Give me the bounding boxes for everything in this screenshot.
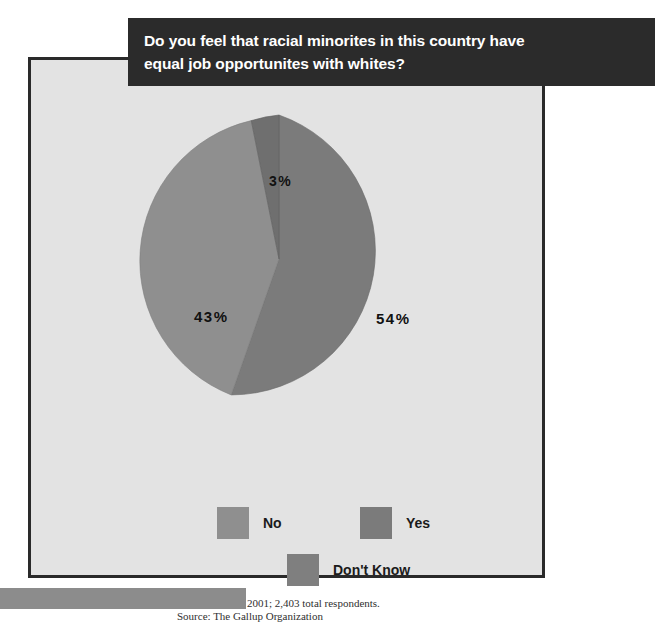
pie-label-dont-know: 3% — [269, 173, 292, 189]
legend-label-yes: Yes — [406, 515, 430, 531]
pie-label-no: 43% — [194, 308, 229, 325]
legend-swatch-no — [217, 507, 249, 539]
footnote-line-source: Source: The Gallup Organization — [177, 610, 507, 623]
legend-row-top: No Yes — [217, 507, 487, 543]
legend-label-no: No — [263, 515, 282, 531]
legend-row-bottom: Don't Know — [287, 554, 487, 590]
legend-swatch-dont-know — [287, 554, 319, 586]
pie-chart — [134, 114, 424, 404]
chart-panel: 3% 43% 54% No Yes Don't Know Poll taken … — [28, 57, 545, 578]
pie-svg — [134, 114, 424, 404]
legend-item-yes[interactable]: Yes — [360, 507, 430, 539]
title-banner: Do you feel that racial minorites in thi… — [128, 18, 655, 86]
bottom-accent-bar — [0, 588, 246, 609]
legend-swatch-yes — [360, 507, 392, 539]
legend-label-dont-know: Don't Know — [333, 562, 410, 578]
legend-item-no[interactable]: No — [217, 507, 282, 539]
legend-item-dont-know[interactable]: Don't Know — [287, 554, 410, 586]
title-line-2: equal job opportunites with whites? — [144, 52, 639, 75]
pie-label-yes: 54% — [376, 310, 411, 327]
title-line-1: Do you feel that racial minorites in thi… — [144, 29, 639, 52]
